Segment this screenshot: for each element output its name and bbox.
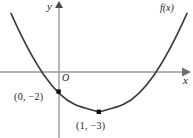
point-label-y-intercept: (0, −2)	[14, 92, 43, 102]
point-label-vertex: (1, −3)	[76, 121, 105, 131]
point-marker-0-minus2	[56, 89, 60, 93]
function-curve-label: f(x)	[160, 3, 174, 13]
y-axis-label: y	[47, 1, 52, 12]
origin-label: O	[62, 73, 69, 83]
y-axis-arrow-icon	[55, 1, 63, 8]
graph-figure: y x f(x) O (0, −2) (1, −3)	[0, 0, 193, 138]
point-marker-vertex	[97, 110, 101, 114]
x-axis-label: x	[183, 75, 188, 86]
parabola-plot	[0, 0, 193, 138]
